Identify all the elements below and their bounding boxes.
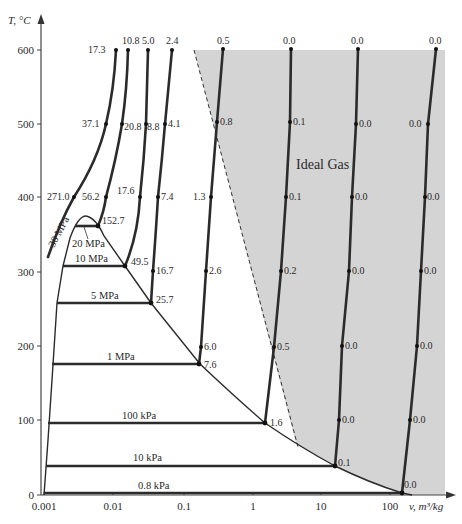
label-100kpa: 100 kPa <box>122 410 156 421</box>
y-tick-labels: 0 100 200 300 400 500 600 <box>18 44 35 501</box>
svg-text:7.4: 7.4 <box>161 191 174 202</box>
ideal-gas-error-chart: 0 100 200 300 400 500 600 T, °C 0.001 0.… <box>0 0 462 524</box>
svg-text:0.1: 0.1 <box>177 500 191 512</box>
x-axis-arrow-icon <box>446 492 456 499</box>
svg-text:37.1: 37.1 <box>82 118 100 129</box>
svg-text:7.6: 7.6 <box>204 359 217 370</box>
svg-text:0.0: 0.0 <box>355 191 368 202</box>
svg-text:4.1: 4.1 <box>168 118 181 129</box>
svg-text:0.1: 0.1 <box>293 116 306 127</box>
svg-text:0.0: 0.0 <box>409 118 422 129</box>
values-30mpa: 271.0 37.1 17.3 <box>47 44 106 202</box>
svg-text:2.6: 2.6 <box>209 265 222 276</box>
y-axis-arrow-icon <box>38 14 45 24</box>
svg-text:0.0: 0.0 <box>413 414 426 425</box>
svg-text:0.0: 0.0 <box>404 479 417 490</box>
svg-text:2.4: 2.4 <box>166 35 179 46</box>
svg-text:0.8: 0.8 <box>220 116 233 127</box>
svg-text:0.0: 0.0 <box>427 191 440 202</box>
x-axis-label: v, m³/kg <box>409 500 444 512</box>
svg-text:25.7: 25.7 <box>156 294 174 305</box>
isobar-10mpa <box>125 50 148 266</box>
label-20mpa: 20 MPa <box>72 238 105 249</box>
svg-text:0.0: 0.0 <box>424 265 437 276</box>
svg-text:1: 1 <box>250 500 256 512</box>
svg-text:10: 10 <box>316 500 328 512</box>
svg-text:400: 400 <box>18 191 35 203</box>
values-10mpa: 49.5 17.6 8.8 5.0 <box>117 35 160 267</box>
isobar-labels: 30 MPa 20 MPa 10 MPa 5 MPa 1 MPa 100 kPa… <box>46 214 170 491</box>
svg-text:0.0: 0.0 <box>420 340 433 351</box>
svg-text:0.01: 0.01 <box>103 500 122 512</box>
label-30mpa: 30 MPa <box>46 214 71 249</box>
svg-text:0.0: 0.0 <box>342 414 355 425</box>
ideal-gas-label: Ideal Gas <box>296 157 349 172</box>
svg-text:0.0: 0.0 <box>345 340 358 351</box>
chart-svg: 0 100 200 300 400 500 600 T, °C 0.001 0.… <box>0 0 462 524</box>
svg-text:0.0: 0.0 <box>351 35 364 46</box>
svg-text:0.1: 0.1 <box>338 457 351 468</box>
svg-text:6.0: 6.0 <box>204 341 217 352</box>
svg-text:17.3: 17.3 <box>88 44 106 55</box>
svg-text:500: 500 <box>18 118 35 130</box>
svg-text:0.5: 0.5 <box>217 35 230 46</box>
label-1mpa: 1 MPa <box>107 351 135 362</box>
svg-text:10.8: 10.8 <box>122 35 140 46</box>
svg-text:1.3: 1.3 <box>193 191 206 202</box>
svg-text:200: 200 <box>18 340 35 352</box>
svg-text:600: 600 <box>18 44 35 56</box>
label-5mpa: 5 MPa <box>91 290 119 301</box>
svg-text:0.0: 0.0 <box>283 35 296 46</box>
svg-text:56.2: 56.2 <box>82 191 100 202</box>
svg-text:0.1: 0.1 <box>289 191 302 202</box>
label-10kpa: 10 kPa <box>133 452 162 463</box>
y-axis-label: T, °C <box>8 14 31 26</box>
svg-text:49.5: 49.5 <box>131 256 149 267</box>
svg-text:0.2: 0.2 <box>284 265 297 276</box>
svg-text:0.0: 0.0 <box>352 265 365 276</box>
svg-text:0.0: 0.0 <box>429 35 442 46</box>
svg-text:16.7: 16.7 <box>156 265 174 276</box>
svg-text:100: 100 <box>382 500 399 512</box>
svg-text:300: 300 <box>18 266 35 278</box>
svg-text:8.8: 8.8 <box>147 121 160 132</box>
values-20mpa: 152.7 56.2 20.8 10.8 <box>82 35 142 226</box>
x-tick-labels: 0.001 0.01 0.1 1 10 100 <box>32 500 399 512</box>
svg-text:0.0: 0.0 <box>359 118 372 129</box>
svg-text:271.0: 271.0 <box>47 191 70 202</box>
label-10mpa: 10 MPa <box>75 253 108 264</box>
svg-text:100: 100 <box>18 414 35 426</box>
svg-text:5.0: 5.0 <box>142 35 155 46</box>
svg-text:20.8: 20.8 <box>124 121 142 132</box>
svg-text:17.6: 17.6 <box>117 185 135 196</box>
svg-text:152.7: 152.7 <box>102 215 125 226</box>
label-08kpa: 0.8 kPa <box>138 480 170 491</box>
svg-text:0.001: 0.001 <box>32 500 57 512</box>
svg-text:1.6: 1.6 <box>270 417 283 428</box>
svg-text:0.5: 0.5 <box>277 341 290 352</box>
